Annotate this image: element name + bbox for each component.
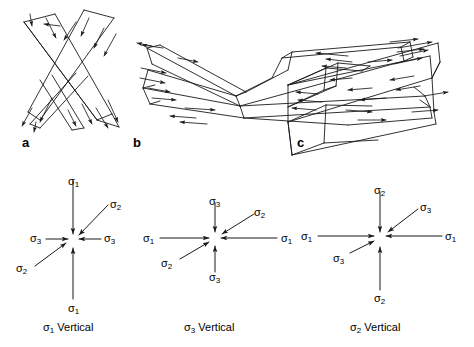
sigma-glyph: σ <box>43 321 50 333</box>
stress-c-label-sigma1-left: σ1 <box>301 231 312 242</box>
sigma-glyph: σ <box>104 232 111 244</box>
sigma-subscript: 2 <box>261 211 265 220</box>
sigma-glyph: σ <box>209 271 216 283</box>
stress-diagram-a-arrows <box>35 181 108 299</box>
caption-word: Vertical <box>57 321 93 333</box>
panel-b-slab-upper-right <box>236 42 413 106</box>
panel-letter-a: a <box>22 136 29 149</box>
sigma-glyph: σ <box>254 206 261 218</box>
panel-a-lower-limbs <box>30 73 88 130</box>
sigma-glyph: σ <box>68 175 75 187</box>
panel-c-shear-arrows <box>292 42 448 110</box>
panel-b-slab-lower-right <box>240 87 432 125</box>
stress-c-label-sigma2-bottom: σ2 <box>374 293 385 304</box>
figure-canvas: a b c σ1 σ1 σ3 σ3 σ2 σ2 σ3 σ3 σ1 σ1 σ2 σ… <box>0 0 474 347</box>
sigma-glyph: σ <box>420 201 427 213</box>
sigma-subscript: 3 <box>216 200 220 209</box>
sigma-glyph: σ <box>333 252 340 264</box>
panel-c-fault-blocks <box>288 42 448 155</box>
sigma-glyph: σ <box>301 230 308 242</box>
sigma-subscript: 2 <box>381 189 385 198</box>
stress-a-label-sigma1-top: σ1 <box>68 176 79 187</box>
sigma-subscript: 2 <box>117 203 121 212</box>
sigma-glyph: σ <box>374 292 381 304</box>
stress-c-sigma3-ur-arrow <box>388 209 418 232</box>
sigma-glyph: σ <box>281 232 288 244</box>
stress-a-sigma2-ll-arrow <box>35 243 66 266</box>
caption-word: Vertical <box>364 321 400 333</box>
stress-a-label-sigma2-lower-left: σ2 <box>16 263 27 274</box>
sigma-subscript: 1 <box>50 326 54 335</box>
stress-c-label-sigma3-lower-left: σ3 <box>333 253 344 264</box>
sigma-subscript: 3 <box>340 257 344 266</box>
sigma-glyph: σ <box>209 195 216 207</box>
stress-b-label-sigma2-upper-right: σ2 <box>254 207 265 218</box>
sigma-subscript: 3 <box>37 237 41 246</box>
sigma-subscript: 3 <box>191 326 195 335</box>
stress-b-sigma2-ur-arrow <box>222 214 254 234</box>
sigma-subscript: 1 <box>75 307 79 316</box>
stress-b-label-sigma1-right: σ1 <box>281 233 292 244</box>
panel-letter-c: c <box>297 136 304 149</box>
sigma-subscript: 1 <box>288 237 292 246</box>
sigma-subscript: 3 <box>216 276 220 285</box>
stress-a-sigma2-ur-arrow <box>79 205 108 235</box>
panel-b-fault-blocks <box>137 39 438 125</box>
panel-letter-b: b <box>133 136 141 149</box>
stress-c-label-sigma2-top: σ2 <box>374 185 385 196</box>
caption-panel-b: σ3 Vertical <box>184 322 234 333</box>
sigma-glyph: σ <box>184 321 191 333</box>
stress-c-label-sigma3-upper-right: σ3 <box>420 202 431 213</box>
sigma-subscript: 2 <box>357 326 361 335</box>
stress-a-label-sigma3-left: σ3 <box>30 233 41 244</box>
stress-c-sigma3-ll-arrow <box>350 241 374 253</box>
sigma-glyph: σ <box>374 184 381 196</box>
stress-b-label-sigma1-left: σ1 <box>143 233 154 244</box>
stress-b-label-sigma2-lower-left: σ2 <box>161 258 172 269</box>
stress-b-label-sigma3-top: σ3 <box>209 196 220 207</box>
sigma-subscript: 1 <box>308 235 312 244</box>
caption-word: Vertical <box>198 321 234 333</box>
caption-panel-a: σ1 Vertical <box>43 322 93 333</box>
panel-a-slab-2 <box>28 10 114 120</box>
sigma-subscript: 1 <box>452 235 456 244</box>
panel-c-wing-right-upper <box>288 43 440 85</box>
sigma-glyph: σ <box>350 321 357 333</box>
stress-b-sigma2-ll-arrow <box>180 242 209 259</box>
sigma-subscript: 1 <box>75 180 79 189</box>
panel-b-slab-lower-left <box>143 70 244 118</box>
figure-vector-layer <box>0 0 474 347</box>
sigma-glyph: σ <box>30 232 37 244</box>
panel-b-slab-upper-left <box>147 45 246 106</box>
sigma-glyph: σ <box>445 230 452 242</box>
sigma-glyph: σ <box>143 232 150 244</box>
stress-c-label-sigma1-right: σ1 <box>445 231 456 242</box>
sigma-glyph: σ <box>16 262 23 274</box>
sigma-glyph: σ <box>110 198 117 210</box>
sigma-subscript: 2 <box>168 262 172 271</box>
panel-c-edges <box>288 86 336 107</box>
caption-panel-c: σ2 Vertical <box>350 322 400 333</box>
sigma-subscript: 3 <box>111 237 115 246</box>
sigma-subscript: 1 <box>150 237 154 246</box>
stress-a-label-sigma3-right: σ3 <box>104 233 115 244</box>
panel-a-fault-blocks <box>22 10 119 132</box>
panel-b-shear-arrows <box>137 39 438 124</box>
sigma-glyph: σ <box>68 302 75 314</box>
stress-a-label-sigma2-upper-right: σ2 <box>110 199 121 210</box>
sigma-subscript: 3 <box>427 206 431 215</box>
stress-a-label-sigma1-bottom: σ1 <box>68 303 79 314</box>
stress-b-label-sigma3-bottom: σ3 <box>209 272 220 283</box>
sigma-subscript: 2 <box>381 297 385 306</box>
sigma-subscript: 2 <box>23 267 27 276</box>
sigma-glyph: σ <box>161 257 168 269</box>
